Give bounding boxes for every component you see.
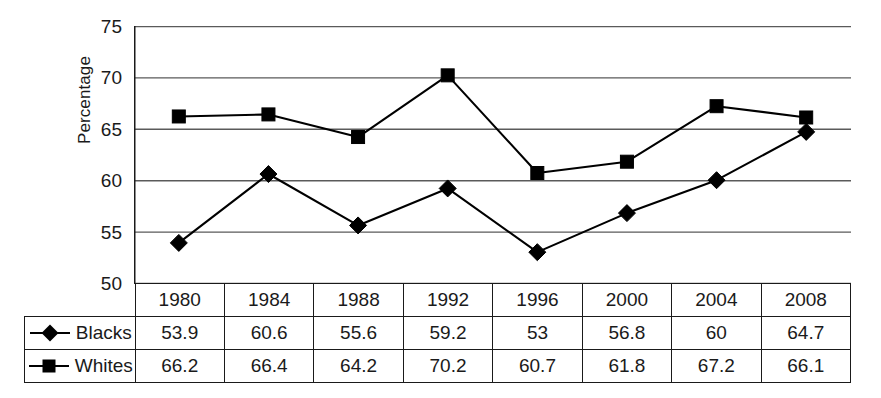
table-year-header-2000: 2000 — [582, 284, 671, 317]
series-line-blacks — [179, 132, 806, 252]
table-cell-whites-1992: 70.2 — [403, 350, 492, 383]
marker-blacks-1992 — [439, 180, 456, 197]
table-year-header-2004: 2004 — [672, 284, 761, 317]
square-legend-icon — [27, 357, 71, 375]
table-row: Blacks53.960.655.659.25356.86064.7 — [25, 317, 851, 350]
marker-blacks-2000 — [618, 205, 635, 222]
table-cell-blacks-2004: 60 — [672, 317, 761, 350]
y-tick-label-55: 55 — [80, 223, 122, 242]
table-year-header-1988: 1988 — [314, 284, 403, 317]
table-cell-blacks-1980: 53.9 — [135, 317, 224, 350]
table-row: Whites66.266.464.270.260.761.867.266.1 — [25, 350, 851, 383]
series-line-whites — [179, 75, 806, 173]
table-cell-whites-2000: 61.8 — [582, 350, 671, 383]
table-cell-blacks-1996: 53 — [493, 317, 582, 350]
table-cell-blacks-1988: 55.6 — [314, 317, 403, 350]
legend-cell-whites: Whites — [25, 350, 136, 383]
table-cell-whites-2004: 67.2 — [672, 350, 761, 383]
table-year-header-2008: 2008 — [761, 284, 850, 317]
data-table-wrapper: 19801984198819921996200020042008Blacks53… — [24, 283, 851, 383]
line-chart-figure: Percentage 75 70 65 60 55 50 19801984198… — [0, 0, 881, 398]
table-year-header-1992: 1992 — [403, 284, 492, 317]
marker-blacks-2004 — [708, 172, 725, 189]
table-cell-whites-1996: 60.7 — [493, 350, 582, 383]
marker-blacks-1996 — [529, 244, 546, 261]
y-tick-label-65: 65 — [80, 120, 122, 139]
y-axis-tick-labels: 75 70 65 60 55 50 — [72, 0, 122, 300]
table-header-row: 19801984198819921996200020042008 — [25, 284, 851, 317]
table-cell-whites-1980: 66.2 — [135, 350, 224, 383]
marker-blacks-2008 — [798, 123, 815, 140]
y-tick-label-75: 75 — [80, 17, 122, 36]
table-year-header-1984: 1984 — [224, 284, 313, 317]
plot-area — [134, 26, 851, 283]
marker-blacks-1988 — [350, 217, 367, 234]
table-cell-whites-1988: 64.2 — [314, 350, 403, 383]
data-table: 19801984198819921996200020042008Blacks53… — [24, 283, 851, 383]
table-cell-blacks-2008: 64.7 — [761, 317, 850, 350]
y-tick-label-60: 60 — [80, 171, 122, 190]
marker-whites-1984 — [262, 108, 275, 121]
diamond-legend-icon — [28, 324, 72, 342]
marker-whites-1992 — [441, 69, 454, 82]
table-year-header-1996: 1996 — [493, 284, 582, 317]
table-cell-blacks-1984: 60.6 — [224, 317, 313, 350]
marker-whites-1980 — [172, 110, 185, 123]
table-cell-blacks-1992: 59.2 — [403, 317, 492, 350]
table-cell-whites-2008: 66.1 — [761, 350, 850, 383]
legend-cell-blacks: Blacks — [25, 317, 136, 350]
table-cell-blacks-2000: 56.8 — [582, 317, 671, 350]
table-year-header-1980: 1980 — [135, 284, 224, 317]
marker-whites-1988 — [352, 131, 365, 144]
marker-blacks-1984 — [260, 166, 277, 183]
marker-whites-2000 — [620, 155, 633, 168]
marker-whites-1996 — [531, 167, 544, 180]
marker-whites-2008 — [800, 111, 813, 124]
marker-whites-2004 — [710, 100, 723, 113]
legend-label-blacks: Blacks — [76, 322, 132, 344]
marker-blacks-1980 — [170, 234, 187, 251]
y-tick-label-70: 70 — [80, 68, 122, 87]
plot-svg — [134, 26, 851, 284]
table-corner-cell — [25, 284, 136, 317]
table-cell-whites-1984: 66.4 — [224, 350, 313, 383]
legend-label-whites: Whites — [75, 355, 133, 377]
